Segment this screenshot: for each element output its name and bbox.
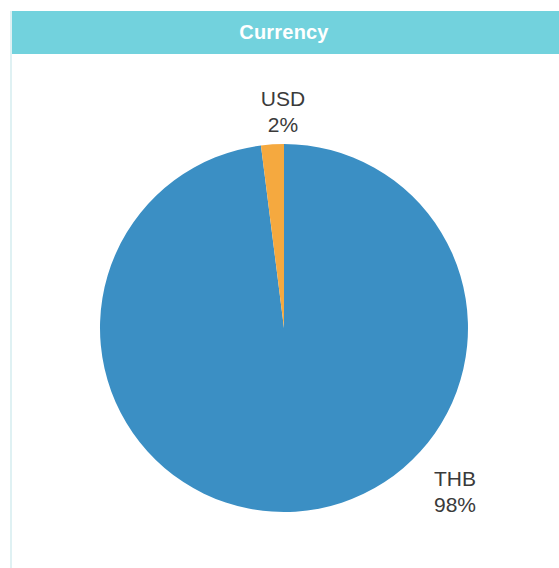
pie-label-usd: USD 2% xyxy=(233,86,333,138)
currency-chart-card: Currency USD 2% THB 98% xyxy=(0,0,559,568)
pie-label-thb-percent: 98% xyxy=(405,492,505,518)
pie-label-thb: THB 98% xyxy=(405,466,505,518)
pie-label-usd-percent: 2% xyxy=(233,112,333,138)
pie-label-usd-name: USD xyxy=(233,86,333,112)
pie-label-thb-name: THB xyxy=(405,466,505,492)
